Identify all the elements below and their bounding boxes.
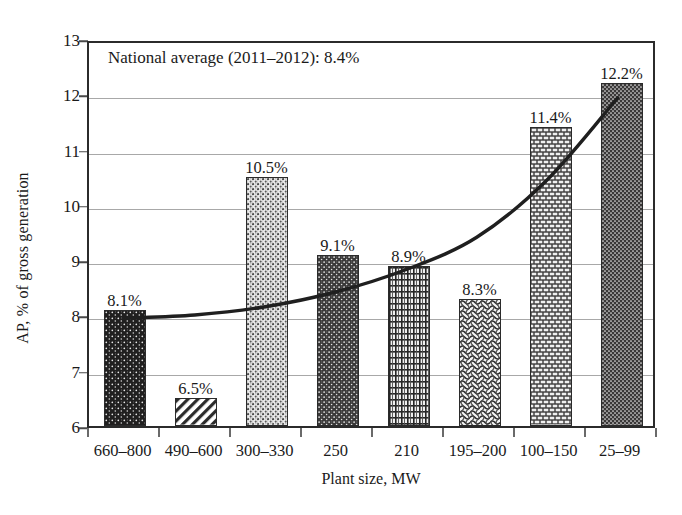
chart-figure: AP, % of gross generation 678910111213: [0, 0, 682, 515]
x-tick-label-8: 25–99: [599, 441, 640, 461]
y-axis-title: AP, % of gross generation: [10, 0, 36, 515]
x-tick-label-4: 250: [323, 441, 348, 461]
y-tick-label-9: 9: [50, 252, 80, 272]
x-tick-mark: [87, 428, 89, 437]
national-average-annotation: National average (2011–2012): 8.4%: [108, 48, 359, 68]
bar-fill-dark-dot: [602, 84, 642, 425]
bar-value-label-2: 6.5%: [178, 379, 212, 399]
y-tick-label-12: 12: [50, 86, 80, 106]
bar-value-label-6: 8.3%: [462, 280, 496, 300]
bar-1: [104, 310, 146, 426]
x-axis-title: Plant size, MW: [87, 470, 655, 488]
x-tick-label-7: 100–150: [520, 441, 578, 461]
bar-fill-dark-speckle: [105, 311, 145, 425]
y-tick-label-6: 6: [50, 418, 80, 438]
plot-inner: 8.1% 6.5%: [89, 43, 653, 426]
bar-fill-grid-crosshatch: [389, 267, 429, 425]
x-tick-mark: [371, 428, 373, 437]
x-tick-mark: [442, 428, 444, 437]
y-tick-label-10: 10: [50, 197, 80, 217]
x-tick-label-6: 195–200: [449, 441, 507, 461]
x-tick-mark: [158, 428, 160, 437]
bar-fill-light-speckle: [247, 178, 287, 425]
bar-6: [459, 299, 501, 426]
bar-4: [317, 255, 359, 426]
y-axis-title-text: AP, % of gross generation: [14, 172, 32, 344]
bar-8: [601, 83, 643, 426]
bar-2: [175, 398, 217, 426]
x-tick-mark: [584, 428, 586, 437]
y-tick-label-8: 8: [50, 307, 80, 327]
x-tick-mark: [513, 428, 515, 437]
bar-value-label-7: 11.4%: [529, 108, 571, 128]
bar-value-label-4: 9.1%: [320, 236, 354, 256]
bar-5: [388, 266, 430, 426]
bar-value-label-1: 8.1%: [107, 291, 141, 311]
x-tick-mark: [655, 428, 657, 437]
bar-fill-brick: [531, 128, 571, 425]
gridline: [89, 98, 653, 99]
x-tick-label-5: 210: [394, 441, 419, 461]
bar-value-label-3: 10.5%: [245, 158, 288, 178]
y-tick-label-13: 13: [50, 31, 80, 51]
x-tick-label-3: 300–330: [236, 441, 294, 461]
x-tick-mark: [229, 428, 231, 437]
x-tick-label-2: 490–600: [165, 441, 223, 461]
x-tick-label-1: 660–800: [94, 441, 152, 461]
bar-fill-diagonal-hatch: [176, 399, 216, 425]
bar-value-label-8: 12.2%: [600, 64, 643, 84]
bar-3: [246, 177, 288, 426]
bar-fill-basket-weave: [460, 300, 500, 425]
bar-value-label-5: 8.9%: [391, 247, 425, 267]
bar-7: [530, 127, 572, 426]
y-tick-label-11: 11: [50, 142, 80, 162]
bar-fill-mid-speckle: [318, 256, 358, 425]
y-tick-label-7: 7: [50, 363, 80, 383]
x-tick-mark: [300, 428, 302, 437]
plot-area: 8.1% 6.5%: [87, 41, 655, 428]
